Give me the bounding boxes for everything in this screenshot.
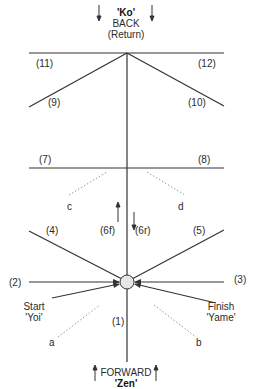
yame-label: 'Yame' (206, 312, 235, 323)
label-12: (12) (198, 58, 216, 69)
line-5 (132, 230, 224, 279)
finish-label: Finish (208, 301, 235, 312)
label-7: (7) (39, 154, 51, 165)
zen-term: 'Zen' (115, 378, 138, 389)
label-c: c (67, 201, 72, 212)
back-arrow-left-head (97, 16, 101, 21)
label-d: d (178, 201, 184, 212)
back-arrow-right-head (150, 16, 154, 21)
label-4: (4) (46, 225, 58, 236)
yoi-label: 'Yoi' (25, 312, 42, 323)
label-8: (8) (198, 154, 210, 165)
forward-arrow-right-head (154, 365, 158, 370)
label-6f: (6f) (100, 225, 115, 236)
label-9: (9) (48, 97, 60, 108)
label-1: (1) (112, 316, 124, 327)
dotted-d (147, 172, 185, 195)
arrowhead-finish (134, 283, 141, 288)
line-finish (135, 284, 216, 303)
dotted-c (69, 172, 107, 195)
label-11: (11) (36, 58, 53, 69)
forward-label: FORWARD (100, 367, 151, 378)
label-b: b (196, 337, 202, 348)
arrowhead-start (113, 283, 120, 288)
forward-arrow-left-head (93, 365, 97, 370)
label-3: (3) (234, 274, 246, 285)
label-a: a (49, 337, 55, 348)
label-6r: (6r) (135, 225, 151, 236)
line-start (52, 284, 119, 298)
label-2: (2) (9, 277, 21, 288)
dotted-b (154, 305, 196, 337)
label-10: (10) (188, 97, 206, 108)
center-circle (120, 275, 134, 289)
line-4 (29, 231, 122, 279)
label-5: (5) (193, 225, 205, 236)
back-label: BACK (112, 18, 139, 29)
dotted-a (58, 305, 100, 337)
start-label: Start (23, 301, 44, 312)
return-label: (Return) (108, 29, 145, 40)
arrow-6f-head (116, 202, 120, 207)
kata-embusen-diagram: 'Ko' BACK (Return) FORWARD 'Zen' (11) (1… (0, 0, 258, 389)
ko-term: 'Ko' (117, 7, 135, 18)
